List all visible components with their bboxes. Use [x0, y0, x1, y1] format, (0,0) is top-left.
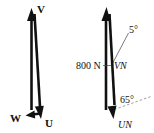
- left-vector-U-shaft: [35, 14, 41, 107]
- figure-canvas: V W U 800 N VN UN 5°: [0, 0, 154, 133]
- left-label-W: W: [10, 112, 21, 124]
- left-vector-U: [35, 14, 44, 119]
- left-label-V: V: [37, 3, 45, 15]
- left-vector-W-arrowhead: [26, 111, 36, 119]
- right-vector-UN-arrowhead: [108, 106, 117, 120]
- right-diagram: 800 N VN UN 5° 65°: [76, 7, 151, 130]
- right-label-angle-5: 5°: [129, 24, 138, 35]
- vector-diagram-figure: V W U 800 N VN UN 5°: [0, 0, 154, 133]
- leader-line-5deg: [113, 33, 129, 64]
- right-label-angle-65: 65°: [120, 94, 134, 105]
- left-label-U: U: [45, 117, 53, 129]
- right-label-UN: UN: [118, 119, 133, 130]
- right-label-VN: VN: [114, 60, 128, 71]
- left-diagram: V W U: [10, 3, 53, 129]
- right-label-magnitude: 800 N: [76, 60, 101, 71]
